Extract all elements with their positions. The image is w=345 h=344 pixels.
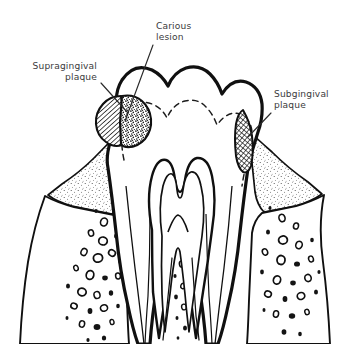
bone-right-outline — [247, 195, 330, 344]
label-subgingival-plaque-line2: plaque — [274, 100, 306, 110]
label-supragingival-plaque-line1: Supragingival — [33, 61, 97, 71]
label-carious-lesion-line2: lesion — [156, 32, 184, 42]
label-carious-lesion-line1: Carious — [156, 21, 191, 31]
label-subgingival-plaque-line1: Subgingival — [274, 89, 329, 99]
tooth-diagram-svg: Supragingival plaque Carious lesion Subg… — [0, 0, 345, 344]
tooth-cross-section-figure: Supragingival plaque Carious lesion Subg… — [0, 0, 345, 344]
label-supragingival-plaque-line2: plaque — [65, 72, 97, 82]
